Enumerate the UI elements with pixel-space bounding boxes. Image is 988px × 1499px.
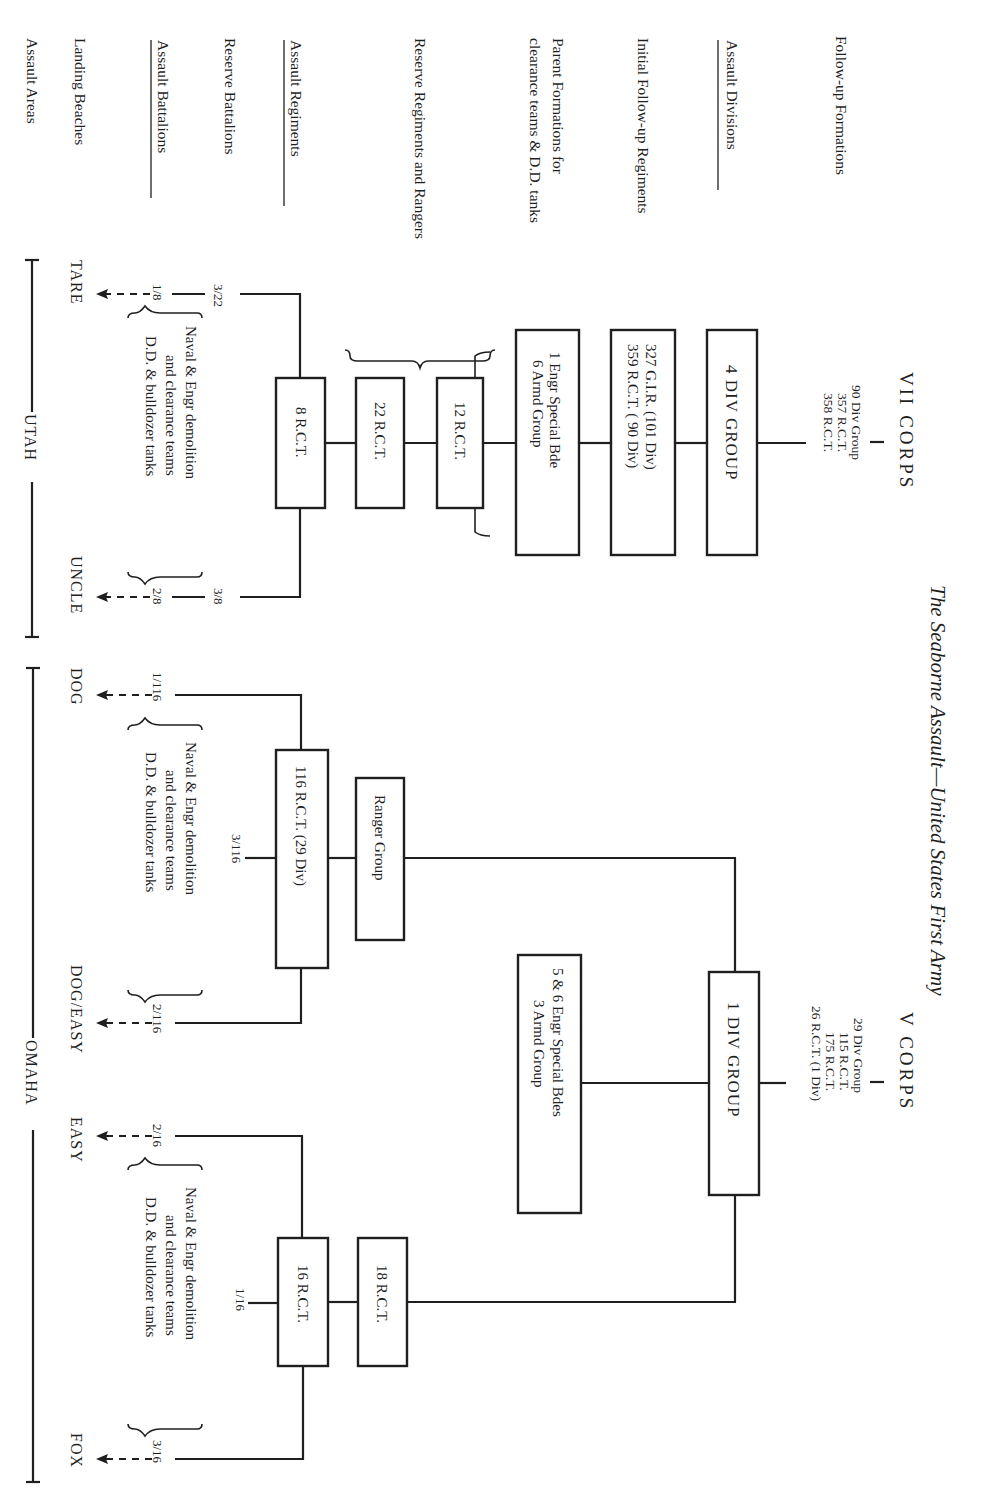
- box-18-rct-label: 18 R.C.T.: [374, 1265, 390, 1323]
- v-follow-up-2: 115 R.C.T.: [837, 1032, 852, 1091]
- area-utah: UTAH: [22, 414, 39, 461]
- beach-easy: EASY: [68, 1117, 85, 1163]
- battalion-1-116: 1/116: [150, 672, 165, 702]
- brace-right: [128, 572, 202, 584]
- v-follow-up-4: 26 R.C.T. (1 Div): [809, 1006, 824, 1101]
- vii-follow-up-3: 358 R.C.T.: [821, 393, 836, 452]
- battalion-2-8: 2/8: [150, 588, 165, 605]
- battalion-3-16: 3/16: [150, 1440, 165, 1464]
- reserve-regiments-brace: [345, 350, 495, 368]
- box-4-div-group-label: 4 DIV GROUP: [722, 365, 741, 481]
- box-12-rct-label: 12 R.C.T.: [452, 402, 468, 460]
- omaha-fox-clearance-line2: and clearance teams: [163, 1215, 179, 1336]
- battalion-3-22: 3/22: [211, 284, 226, 307]
- battalion-1-8: 1/8: [150, 284, 165, 301]
- brace-left: [128, 306, 202, 318]
- box-327-gir-line2: 359 R.C.T. ( 90 Div): [624, 344, 641, 468]
- chart-title: The Seaborne Assault—United States First…: [926, 585, 950, 996]
- box-5-6-engr-special-bdes[interactable]: [518, 955, 581, 1213]
- beach-uncle: UNCLE: [68, 556, 85, 614]
- box-1-div-group-label: 1 DIV GROUP: [724, 1002, 743, 1118]
- box-ranger-group-label: Ranger Group: [372, 795, 388, 880]
- utah-clearance-line3: D.D. & bulldozer tanks: [143, 336, 159, 477]
- box-16-rct-label: 16 R.C.T.: [295, 1265, 311, 1323]
- battalion-1-16: 1/16: [233, 1288, 248, 1312]
- v-corps-branch: V CORPS 29 Div Group 115 R.C.T. 175 R.C.…: [23, 668, 917, 1482]
- beach-fox: FOX: [68, 1433, 85, 1468]
- vii-follow-up-2: 357 R.C.T.: [835, 393, 850, 452]
- box-5-6-engr-line2: 3 Armd Group: [531, 1000, 547, 1088]
- row-label-reserve-battalions: Reserve Battalions: [222, 38, 239, 155]
- row-label-parent-formations-2: clearance teams & D.D. tanks: [527, 38, 544, 223]
- box-8-rct-label: 8 R.C.T.: [293, 407, 309, 458]
- battalion-3-116: 3/116: [229, 834, 244, 864]
- box-1-engr-line1: 1 Engr Special Bde: [547, 352, 563, 469]
- battalion-2-116: 2/116: [150, 1004, 165, 1034]
- v-corps-label: V CORPS: [896, 1012, 917, 1111]
- row-label-assault-battalions: Assault Battalions: [155, 40, 172, 153]
- area-omaha: OMAHA: [23, 1040, 40, 1105]
- box-1-engr-line2: 6 Armd Group: [530, 360, 546, 448]
- row-label-parent-formations: Parent Formations for: [550, 38, 567, 175]
- row-label-initial-follow-up-regiments: Initial Follow-up Regiments: [635, 38, 652, 214]
- row-label-assault-areas: Assault Areas: [24, 38, 41, 124]
- battalion-3-8: 3/8: [211, 588, 226, 605]
- v-follow-up-3: 175 R.C.T.: [823, 1032, 838, 1091]
- box-327-gir-line1: 327 G.I.R. (101 Div): [642, 344, 659, 470]
- org-chart: The Seaborne Assault—United States First…: [0, 0, 988, 1499]
- row-label-landing-beaches: Landing Beaches: [72, 38, 89, 145]
- battalion-2-16: 2/16: [150, 1124, 165, 1148]
- omaha-dog-clearance-line1: Naval & Engr demolition: [183, 742, 199, 895]
- row-label-assault-regiments: Assault Regiments: [288, 40, 305, 157]
- row-label-assault-divisions: Assault Divisions: [724, 40, 741, 150]
- utah-clearance-line2: and clearance teams: [163, 355, 179, 476]
- omaha-dog-clearance-line2: and clearance teams: [163, 770, 179, 891]
- box-116-rct-label: 116 R.C.T. (29 Div): [292, 766, 309, 886]
- box-327-gir[interactable]: [611, 330, 675, 555]
- vii-corps-label: VII CORPS: [896, 372, 917, 490]
- row-labels: Follow-up Formations Assault Divisions I…: [24, 36, 850, 239]
- row-label-follow-up-formations: Follow-up Formations: [833, 36, 850, 175]
- vii-corps-branch: VII CORPS 90 Div Group 357 R.C.T. 358 R.…: [22, 260, 917, 637]
- box-5-6-engr-line1: 5 & 6 Engr Special Bdes: [550, 968, 566, 1117]
- beach-dog-easy: DOG/EASY: [68, 965, 85, 1054]
- box-22-rct-label: 22 R.C.T.: [372, 402, 388, 460]
- v-follow-up-1: 29 Div Group: [851, 1018, 866, 1093]
- beach-tare: TARE: [68, 260, 85, 305]
- vii-follow-up-1: 90 Div Group: [849, 385, 864, 460]
- beach-dog: DOG: [68, 668, 85, 706]
- omaha-fox-clearance-line1: Naval & Engr demolition: [183, 1187, 199, 1340]
- omaha-dog-clearance-line3: D.D. & bulldozer tanks: [143, 752, 159, 893]
- omaha-fox-clearance-line3: D.D. & bulldozer tanks: [143, 1197, 159, 1338]
- row-label-reserve-regiments-rangers: Reserve Regiments and Rangers: [412, 38, 429, 239]
- utah-clearance-line1: Naval & Engr demolition: [183, 326, 199, 479]
